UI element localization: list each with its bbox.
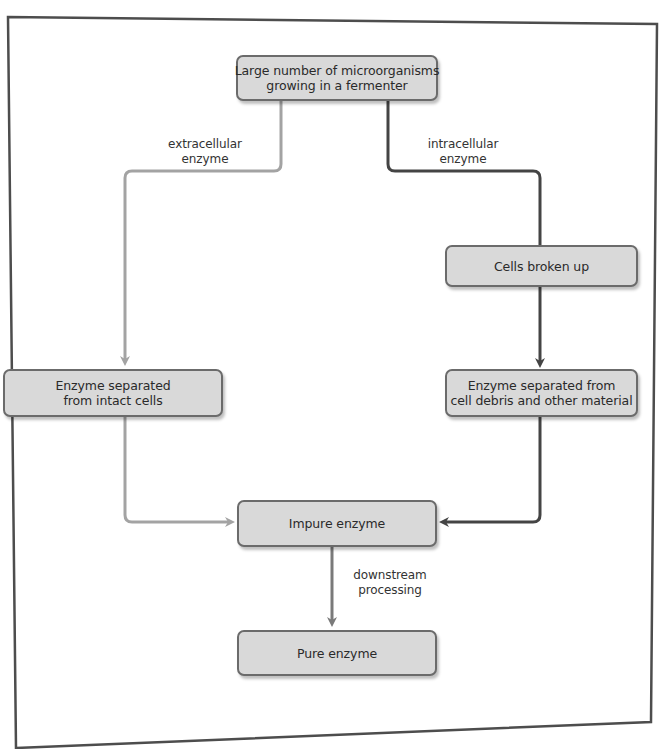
label-line2: processing [350,583,430,598]
node-text-line1: Large number of microorganisms [235,63,440,78]
node-text-line1: Enzyme separated from [450,378,632,393]
node-microorganisms-fermenter: Large number of microorganisms growing i… [236,55,438,101]
node-cells-broken-up: Cells broken up [445,245,638,287]
label-line1: extracellular [150,137,260,152]
label-line2: enzyme [408,152,518,167]
node-text-line2: cell debris and other material [450,393,632,408]
debris-to-impure-connector [444,417,540,522]
node-impure-enzyme: Impure enzyme [237,500,437,547]
edge-label-extracellular-enzyme: extracellular enzyme [150,137,260,167]
node-text-line2: from intact cells [55,393,170,408]
edge-label-downstream-processing: downstream processing [350,568,430,598]
node-enzyme-separated-intact-cells: Enzyme separated from intact cells [3,369,223,417]
enzyme-production-flowchart: Large number of microorganisms growing i… [0,0,666,749]
node-text-line1: Pure enzyme [297,646,377,661]
label-line1: intracellular [408,137,518,152]
node-enzyme-separated-cell-debris: Enzyme separated from cell debris and ot… [445,369,638,417]
node-text-line2: growing in a fermenter [235,78,440,93]
intracellular-connector [388,101,540,245]
node-text-line1: Cells broken up [494,259,589,274]
node-text-line1: Impure enzyme [289,516,385,531]
node-text-line1: Enzyme separated [55,378,170,393]
node-pure-enzyme: Pure enzyme [237,630,437,676]
intact-to-impure-connector [125,417,230,522]
label-line2: enzyme [150,152,260,167]
edge-label-intracellular-enzyme: intracellular enzyme [408,137,518,167]
label-line1: downstream [350,568,430,583]
